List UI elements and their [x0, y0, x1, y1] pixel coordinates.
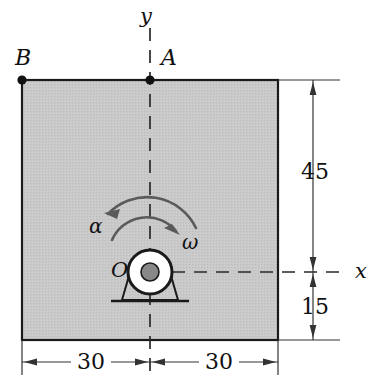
point-b-marker	[17, 75, 26, 84]
x-axis-label: x	[355, 261, 367, 282]
dim-30-left-arrow-end	[135, 359, 148, 366]
bearing-hub	[141, 263, 159, 281]
dim-30-right-text: 30	[199, 351, 239, 373]
figure-canvas: y x B A O α ω 45 15 30 30	[0, 0, 379, 383]
dim-15-text: 15	[301, 296, 329, 318]
dim-30-left-text: 30	[71, 351, 111, 373]
dim-15-arrow-bottom	[310, 325, 317, 338]
diagram-svg	[0, 0, 379, 383]
point-b-label: B	[15, 47, 31, 69]
alpha-label: α	[89, 216, 103, 236]
dim-45-arrow-bottom	[310, 257, 317, 270]
dim-45-text: 45	[301, 161, 329, 183]
dim-15-arrow-top	[310, 274, 317, 287]
dim-30-right-arrow-start	[152, 359, 165, 366]
point-a-label: A	[161, 47, 177, 69]
y-axis-label: y	[140, 6, 152, 27]
omega-label: ω	[182, 232, 198, 252]
point-o-label: O	[111, 260, 128, 281]
dim-30-left-arrow-start	[24, 359, 37, 366]
dim-45-arrow-top	[310, 82, 317, 95]
dim-30-right-arrow-end	[263, 359, 276, 366]
point-a-marker	[145, 75, 154, 84]
